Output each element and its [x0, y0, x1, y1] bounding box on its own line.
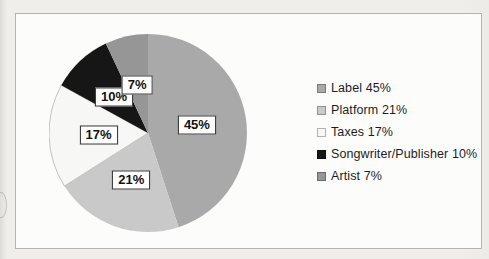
legend-item-songwriter-publisher: Songwriter/Publisher 10%: [317, 143, 477, 165]
legend-label: Platform 21%: [331, 103, 407, 117]
legend-marker-taxes: [317, 128, 326, 137]
legend-marker-songwriter-publisher: [317, 150, 326, 159]
legend-item-label: Label 45%: [317, 77, 477, 99]
legend-item-artist: Artist 7%: [317, 165, 477, 187]
page: 45%21%17%10%7% Label 45% Platform 21% Ta…: [0, 0, 489, 259]
legend-label: Songwriter/Publisher 10%: [331, 147, 477, 161]
legend-item-taxes: Taxes 17%: [317, 121, 477, 143]
legend-marker-artist: [317, 172, 326, 181]
legend-item-platform: Platform 21%: [317, 99, 477, 121]
legend-label: Artist 7%: [331, 169, 382, 183]
pie-chart: [49, 34, 247, 232]
legend: Label 45% Platform 21% Taxes 17% Songwri…: [317, 77, 477, 187]
legend-marker-platform: [317, 106, 326, 115]
legend-label: Label 45%: [331, 81, 391, 95]
legend-label: Taxes 17%: [331, 125, 393, 139]
legend-marker-label: [317, 84, 326, 93]
scan-artifact-mark: [0, 192, 7, 218]
